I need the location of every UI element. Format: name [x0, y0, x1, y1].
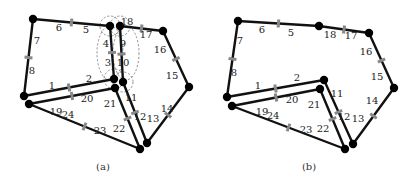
node-D	[159, 27, 167, 35]
caption-a: (a)	[96, 161, 110, 172]
node-J	[316, 85, 324, 93]
edge-label-22: 22	[317, 123, 330, 134]
node-H	[110, 75, 118, 83]
node-K	[20, 92, 28, 100]
edge-label-5: 5	[83, 24, 89, 35]
edge-midpoint-tick	[275, 85, 276, 93]
node-F	[143, 139, 151, 147]
edge-label-23: 23	[300, 124, 313, 135]
edge-label-18: 18	[324, 29, 337, 40]
edge-label-24: 24	[62, 109, 75, 120]
edge-label-18: 18	[121, 16, 134, 27]
edge-label-2: 2	[294, 72, 300, 83]
edge-label-24: 24	[267, 110, 280, 121]
edge-midpoint-tick	[25, 57, 33, 58]
node-B	[106, 22, 114, 30]
edge-label-1: 1	[49, 80, 55, 91]
edge-label-16: 16	[154, 44, 167, 55]
nodes	[20, 15, 193, 153]
edge-label-14: 14	[366, 95, 379, 106]
graph-figure: 657843910181716151413111221222120192423 …	[0, 0, 416, 185]
node-E	[185, 83, 193, 91]
edge-label-13: 13	[147, 113, 160, 124]
node-J	[111, 84, 119, 92]
edge-midpoint-tick	[124, 117, 131, 120]
edge-labels: 6578181716151413111221222120192423	[231, 24, 384, 135]
edge-label-6: 6	[56, 22, 62, 33]
edge-label-16: 16	[360, 46, 373, 57]
edge-label-12: 12	[134, 111, 147, 122]
node-L	[25, 100, 33, 108]
edge-midpoint-tick	[108, 52, 116, 53]
node-G	[341, 145, 349, 153]
edge-label-2: 2	[86, 73, 92, 84]
edge-label-20: 20	[286, 94, 299, 105]
edge-label-7: 7	[237, 35, 243, 46]
edge-label-1: 1	[255, 80, 261, 91]
node-E	[390, 84, 398, 92]
edge-midpoint-tick	[172, 57, 179, 60]
panel-b: 6578181716151413111221222120192423 (b)	[223, 17, 398, 172]
edge-label-4: 4	[103, 38, 109, 49]
caption-b: (b)	[302, 161, 316, 172]
edge-label-6: 6	[259, 24, 265, 35]
edge-label-11: 11	[125, 92, 138, 103]
edge-label-11: 11	[331, 88, 344, 99]
node-L	[228, 102, 236, 110]
edge-label-20: 20	[81, 93, 94, 104]
node-G	[136, 145, 144, 153]
node-M	[315, 22, 323, 30]
edge-midpoint-tick	[329, 117, 336, 120]
edge-midpoint-tick	[229, 58, 237, 59]
edge-label-8: 8	[29, 65, 35, 76]
edge-midpoint-tick	[378, 59, 385, 62]
edge-label-7: 7	[34, 35, 40, 46]
edge-label-3: 3	[105, 57, 111, 68]
node-I	[119, 78, 127, 86]
node-A	[234, 17, 242, 25]
edge-midpoint-tick	[275, 94, 277, 102]
edge-midpoint-tick	[71, 92, 72, 100]
edge-label-12: 12	[338, 111, 351, 122]
edge-label-15: 15	[371, 71, 384, 82]
edge-midpoint-tick	[83, 123, 86, 130]
edge-label-14: 14	[161, 103, 174, 114]
edge-label-15: 15	[166, 70, 179, 81]
edge-label-23: 23	[94, 125, 107, 136]
node-H	[320, 76, 328, 84]
edge-label-5: 5	[288, 27, 294, 38]
edge-label-9: 9	[120, 38, 126, 49]
edge-label-21: 21	[308, 99, 321, 110]
node-A	[29, 15, 37, 23]
node-D	[365, 29, 373, 37]
panel-a: 657843910181716151413111221222120192423 …	[20, 15, 193, 172]
edge-label-17: 17	[140, 29, 153, 40]
edge-label-17: 17	[345, 30, 358, 41]
edge-label-8: 8	[231, 67, 237, 78]
edge-label-19: 19	[50, 106, 63, 117]
node-K	[223, 93, 231, 101]
edge-midpoint-tick	[68, 84, 69, 92]
edge-midpoint-tick	[287, 124, 290, 131]
edge-label-22: 22	[113, 123, 126, 134]
edge-label-10: 10	[117, 57, 130, 68]
edge-midpoint-tick	[71, 19, 72, 27]
edge-label-13: 13	[352, 113, 365, 124]
edge-label-21: 21	[104, 98, 117, 109]
node-F	[349, 140, 357, 148]
